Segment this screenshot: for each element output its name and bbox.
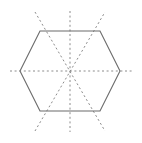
hexagon-diagram-svg (0, 0, 142, 143)
hexagon-figure (0, 0, 142, 143)
